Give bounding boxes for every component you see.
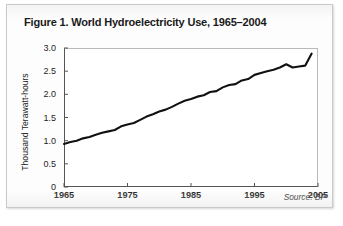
y-tick-label-0.5: 0.5 [43,159,56,169]
y-tick-label-1.5: 1.5 [43,113,56,123]
x-tick-label-1965: 1965 [54,190,74,200]
y-axis-tick-labels: 00.51.01.52.02.53.0 [7,48,61,187]
y-tick-label-2.5: 2.5 [43,66,56,76]
figure-page-frame: Figure 1. World Hydroelectricity Use, 19… [6,4,333,208]
y-tick-label-3.0: 3.0 [43,43,56,53]
x-tick-label-1985: 1985 [181,190,201,200]
source-annotation: Source: BP [284,192,326,202]
x-axis-ticks [64,183,318,187]
plot-area [64,48,318,187]
data-line-series-0 [64,54,312,144]
x-axis-tick-labels: 19651975198519952005 [64,190,318,206]
y-tick-label-2.0: 2.0 [43,89,56,99]
y-axis-ticks [64,48,68,187]
x-tick-label-1995: 1995 [244,190,264,200]
line-chart-svg [64,48,318,187]
x-tick-label-1975: 1975 [117,190,137,200]
y-axis-title: Thousand Terawatt-hours [20,62,30,182]
y-tick-label-1.0: 1.0 [43,136,56,146]
figure-title: Figure 1. World Hydroelectricity Use, 19… [24,16,266,28]
figure-root: Figure 1. World Hydroelectricity Use, 19… [0,0,343,226]
